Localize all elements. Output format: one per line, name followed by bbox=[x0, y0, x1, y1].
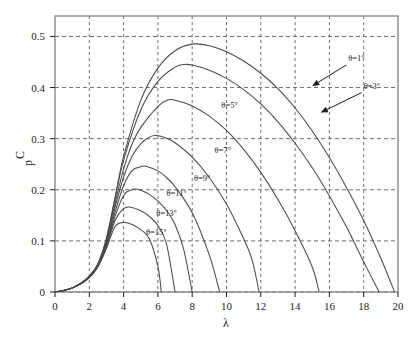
curve-label-9deg: θ=9° bbox=[194, 173, 211, 183]
x-tick-label: 4 bbox=[121, 300, 127, 312]
chart-background bbox=[0, 0, 420, 340]
y-tick-label: 0.1 bbox=[31, 235, 45, 247]
curve-label-7deg: θ=7° bbox=[214, 145, 231, 155]
x-tick-label: 2 bbox=[87, 300, 93, 312]
x-tick-label: 0 bbox=[52, 300, 58, 312]
chart-canvas: 02468101214161820 00.10.20.30.40.5 θ=1°θ… bbox=[0, 0, 420, 340]
y-tick-label: 0.4 bbox=[31, 82, 45, 94]
x-tick-label: 16 bbox=[324, 300, 336, 312]
y-tick-label: 0 bbox=[40, 286, 46, 298]
x-axis-title: λ bbox=[223, 316, 229, 330]
y-tick-label: 0.3 bbox=[31, 133, 45, 145]
x-tick-label: 14 bbox=[290, 300, 302, 312]
x-tick-label: 8 bbox=[189, 300, 195, 312]
y-tick-label: 0.2 bbox=[31, 184, 45, 196]
curve-label-5deg: θ=5° bbox=[221, 100, 238, 110]
x-tick-label: 20 bbox=[393, 300, 405, 312]
x-tick-label: 6 bbox=[155, 300, 161, 312]
y-axis-title-subscript: p bbox=[21, 160, 35, 166]
y-tick-label: 0.5 bbox=[31, 30, 45, 42]
curve-label-1deg: θ=1° bbox=[348, 53, 365, 63]
x-tick-label: 12 bbox=[255, 300, 266, 312]
curve-label-15deg: θ=15° bbox=[146, 227, 167, 237]
cp-lambda-chart-figure: 02468101214161820 00.10.20.30.40.5 θ=1°θ… bbox=[0, 0, 420, 340]
x-tick-label: 18 bbox=[358, 300, 370, 312]
curve-label-13deg: θ=13° bbox=[156, 208, 177, 218]
curve-label-3deg: θ=3° bbox=[364, 81, 381, 91]
curve-label-11deg: θ=11° bbox=[166, 188, 186, 198]
x-tick-label: 10 bbox=[221, 300, 233, 312]
y-axis-title-text: C bbox=[13, 151, 27, 159]
